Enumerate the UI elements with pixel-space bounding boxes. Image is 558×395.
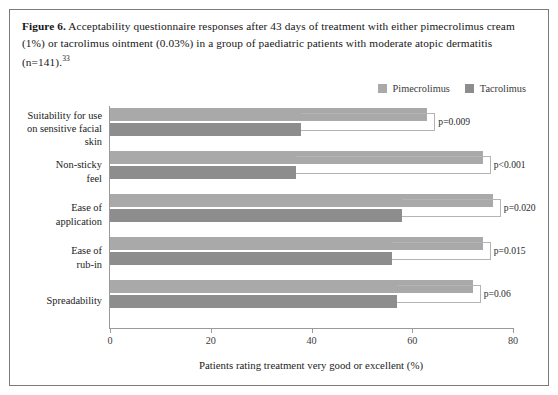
bar-tacrolimus (110, 295, 397, 308)
p-value-annotation: p=0.06 (484, 288, 511, 299)
category-label-line: Ease of (0, 201, 102, 214)
category-label-line: on sensitive facial (0, 122, 102, 135)
figure-label: Figure 6. (22, 20, 66, 32)
significance-bracket (296, 156, 490, 174)
x-axis-label: Patients rating treatment very good or e… (109, 359, 513, 371)
category-label-line: Non-sticky (0, 158, 102, 171)
category-label-line: skin (0, 135, 102, 148)
x-tick-label: 60 (407, 335, 417, 346)
plot-area: PimecrolimusTacrolimus 020406080 Suitabi… (10, 72, 548, 385)
x-tick-mark (412, 328, 413, 333)
bar-group: Ease ofapplicationp=0.020 (28, 194, 528, 237)
category-label: Ease ofrub-in (0, 244, 102, 270)
bar-tacrolimus (110, 166, 296, 179)
p-value-annotation: p=0.020 (504, 202, 536, 213)
bar-tacrolimus (110, 252, 392, 265)
category-label-line: Spreadability (0, 294, 102, 307)
legend-item-pimecrolimus[interactable]: Pimecrolimus (377, 83, 450, 94)
bar-group: Ease ofrub-inp=0.015 (28, 237, 528, 280)
legend-label: Tacrolimus (480, 83, 526, 94)
x-tick-label: 0 (107, 335, 112, 346)
bar-group: Suitability for useon sensitive facialsk… (28, 108, 528, 151)
bar-group: Non-stickyfeelp<0.001 (28, 151, 528, 194)
p-value-annotation: p=0.015 (494, 245, 526, 256)
figure-caption-text: Acceptability questionnaire responses af… (22, 20, 515, 68)
x-tick-label: 40 (306, 335, 316, 346)
figure-card: Figure 6. Acceptability questionnaire re… (9, 9, 549, 386)
p-value-annotation: p=0.009 (438, 116, 470, 127)
significance-bracket (392, 242, 491, 260)
legend-swatch-icon (377, 83, 388, 94)
chart-canvas: 020406080 Suitability for useon sensitiv… (28, 106, 528, 342)
bar-tacrolimus (110, 209, 402, 222)
category-label-line: Suitability for use (0, 109, 102, 122)
category-label-line: application (0, 215, 102, 228)
x-tick-label: 80 (508, 335, 518, 346)
x-tick-mark (110, 328, 111, 333)
category-label: Spreadability (0, 294, 102, 307)
category-label-line: Ease of (0, 244, 102, 257)
x-tick-mark (211, 328, 212, 333)
bar-tacrolimus (110, 123, 301, 136)
x-tick-label: 20 (206, 335, 216, 346)
category-label: Non-stickyfeel (0, 158, 102, 184)
x-tick-mark (312, 328, 313, 333)
significance-bracket (402, 199, 501, 217)
x-tick-mark (513, 328, 514, 333)
chart-legend: PimecrolimusTacrolimus (377, 83, 526, 94)
category-label-line: rub-in (0, 258, 102, 271)
category-label: Suitability for useon sensitive facialsk… (0, 109, 102, 149)
figure-caption: Figure 6. Acceptability questionnaire re… (22, 18, 534, 71)
legend-item-tacrolimus[interactable]: Tacrolimus (464, 83, 526, 94)
figure-reference: 33 (62, 54, 70, 63)
bar-group: Spreadabilityp=0.06 (28, 280, 528, 323)
category-label-line: feel (0, 172, 102, 185)
p-value-annotation: p<0.001 (494, 159, 526, 170)
legend-swatch-icon (464, 83, 475, 94)
significance-bracket (301, 113, 435, 131)
significance-bracket (397, 285, 481, 303)
legend-label: Pimecrolimus (393, 83, 450, 94)
category-label: Ease ofapplication (0, 201, 102, 227)
